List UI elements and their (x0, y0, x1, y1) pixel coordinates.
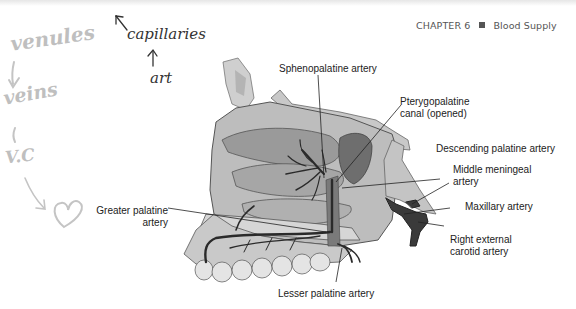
label-sphenopalatine-artery: Sphenopalatine artery (279, 63, 377, 75)
label-line-2: canal (opened) (400, 108, 470, 120)
label-line-1: Right external (450, 234, 512, 246)
label-right-external-carotid-artery: Right external carotid artery (450, 234, 512, 258)
arrow-up-icon (148, 50, 157, 66)
label-maxillary-artery: Maxillary artery (465, 201, 533, 213)
label-lesser-palatine-artery: Lesser palatine artery (278, 288, 374, 300)
label-descending-palatine-artery: Descending palatine artery (436, 143, 555, 155)
label-middle-meningeal-artery: Middle meningeal artery (453, 164, 531, 188)
arrow-down-right-icon (25, 178, 45, 209)
label-pterygopalatine-canal: Pterygopalatine canal (opened) (400, 96, 470, 120)
label-line-2: artery (88, 217, 168, 229)
arrow-left-icon (116, 16, 127, 30)
label-line-2: artery (453, 176, 531, 188)
heart-icon (55, 201, 82, 227)
label-line-1: Middle meningeal (453, 164, 531, 176)
label-line-1: Greater palatine (88, 205, 168, 217)
label-line-1: Pterygopalatine (400, 96, 470, 108)
label-greater-palatine-artery: Greater palatine artery (88, 205, 168, 229)
arrow-down-icon (9, 62, 19, 87)
label-line-2: carotid artery (450, 246, 512, 258)
arrow-down-icon (14, 128, 16, 142)
